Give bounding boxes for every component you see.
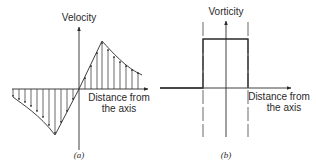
distance-axis-label-b-line1: Distance from: [248, 91, 310, 102]
distance-axis-label-a-line2: the axis: [102, 103, 136, 114]
velocity-curve: [13, 41, 142, 135]
distance-axis-label-a-line1: Distance from: [88, 92, 150, 103]
positive-velocity-arrows: [85, 42, 138, 89]
caption-b: (b): [221, 150, 232, 160]
caption-a: (a): [74, 150, 85, 160]
panel-b-vorticity-profile: Vorticity Distance from the axis (b): [160, 6, 310, 160]
panel-a-velocity-profile: Velocity Distance from the axis (a): [12, 12, 150, 160]
distance-axis-label-b-line2: the axis: [267, 102, 301, 113]
velocity-axis-label: Velocity: [62, 12, 96, 23]
vorticity-axis-label: Vorticity: [208, 6, 243, 17]
vorticity-step: [160, 39, 248, 88]
velocity-vorticity-figure: Velocity Distance from the axis (a) Vort…: [0, 0, 316, 164]
negative-velocity-arrows: [13, 89, 73, 134]
